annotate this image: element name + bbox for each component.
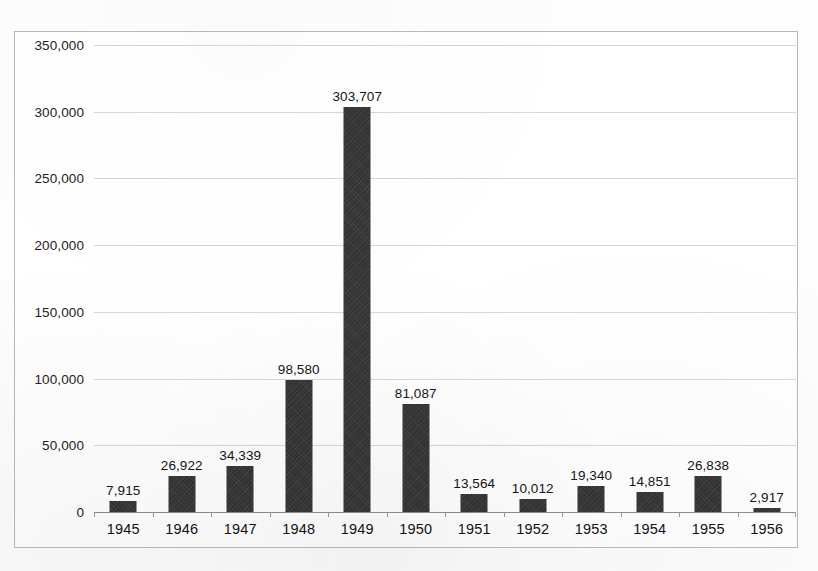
- bar-value-label: 13,564: [453, 476, 495, 491]
- x-axis-category-label: 1952: [516, 521, 549, 537]
- x-axis-category-label: 1948: [282, 521, 315, 537]
- bar[interactable]: [285, 380, 312, 512]
- bar[interactable]: [695, 476, 722, 512]
- bar-value-label: 26,922: [161, 458, 203, 473]
- x-axis-tick-mark: [562, 512, 563, 517]
- bar[interactable]: [168, 476, 195, 512]
- bar-slot: 26,8381955: [679, 45, 738, 512]
- bar[interactable]: [578, 486, 605, 512]
- x-axis-category-label: 1946: [165, 521, 198, 537]
- bar-value-label: 34,339: [219, 448, 261, 463]
- y-axis-tick-label: 250,000: [35, 171, 85, 186]
- x-axis-tick-mark: [679, 512, 680, 517]
- bar[interactable]: [402, 404, 429, 512]
- y-axis-tick-label: 0: [76, 505, 84, 520]
- x-axis-tick-mark: [328, 512, 329, 517]
- y-axis-tick-label: 300,000: [35, 104, 85, 119]
- bar-value-label: 14,851: [629, 474, 671, 489]
- y-axis-tick-label: 200,000: [35, 238, 85, 253]
- bar-value-label: 98,580: [278, 362, 320, 377]
- bar-slot: 14,8511954: [621, 45, 680, 512]
- bar-slot: 2,9171956: [738, 45, 797, 512]
- bar-value-label: 10,012: [512, 481, 554, 496]
- y-axis-tick-label: 100,000: [35, 371, 85, 386]
- x-axis-category-label: 1955: [692, 521, 725, 537]
- chart-frame: 050,000100,000150,000200,000250,000300,0…: [14, 31, 798, 548]
- bar[interactable]: [636, 492, 663, 512]
- x-axis-category-label: 1956: [750, 521, 783, 537]
- bar-series: 7,915194526,922194634,339194798,58019483…: [94, 45, 796, 512]
- x-axis-tick-mark: [270, 512, 271, 517]
- bar-slot: 13,5641951: [445, 45, 504, 512]
- bar-value-label: 2,917: [750, 490, 784, 505]
- x-axis-tick-mark: [795, 512, 796, 517]
- bar[interactable]: [519, 499, 546, 512]
- bar-slot: 10,0121952: [504, 45, 563, 512]
- bar[interactable]: [227, 466, 254, 512]
- bar[interactable]: [753, 508, 780, 512]
- bar[interactable]: [110, 501, 137, 512]
- y-axis-tick-label: 350,000: [35, 38, 85, 53]
- x-axis-tick-mark: [504, 512, 505, 517]
- x-axis-category-label: 1954: [633, 521, 666, 537]
- x-axis-tick-mark: [621, 512, 622, 517]
- bar[interactable]: [344, 107, 371, 512]
- y-axis-tick-label: 50,000: [42, 438, 84, 453]
- bar-value-label: 26,838: [687, 458, 729, 473]
- bar-slot: 303,7071949: [328, 45, 387, 512]
- bar-value-label: 19,340: [570, 468, 612, 483]
- bar-value-label: 303,707: [333, 89, 383, 104]
- bar[interactable]: [461, 494, 488, 512]
- bar-slot: 34,3391947: [211, 45, 270, 512]
- scanned-page: 050,000100,000150,000200,000250,000300,0…: [0, 0, 818, 571]
- x-axis-tick-mark: [387, 512, 388, 517]
- x-axis-category-label: 1949: [341, 521, 374, 537]
- x-axis-tick-mark: [94, 512, 95, 517]
- bar-slot: 98,5801948: [270, 45, 329, 512]
- x-axis-category-label: 1947: [224, 521, 257, 537]
- bar-value-label: 7,915: [106, 483, 140, 498]
- bar-value-label: 81,087: [395, 386, 437, 401]
- x-axis-category-label: 1950: [399, 521, 432, 537]
- x-axis-tick-mark: [445, 512, 446, 517]
- y-axis-tick-label: 150,000: [35, 304, 85, 319]
- bar-slot: 7,9151945: [94, 45, 153, 512]
- bar-slot: 26,9221946: [153, 45, 212, 512]
- x-axis-category-label: 1953: [575, 521, 608, 537]
- x-axis-category-label: 1945: [107, 521, 140, 537]
- x-axis-tick-mark: [738, 512, 739, 517]
- x-axis-tick-mark: [153, 512, 154, 517]
- plot-area: 050,000100,000150,000200,000250,000300,0…: [94, 45, 796, 512]
- bar-slot: 81,0871950: [387, 45, 446, 512]
- x-axis-category-label: 1951: [458, 521, 491, 537]
- x-axis-tick-mark: [211, 512, 212, 517]
- bar-slot: 19,3401953: [562, 45, 621, 512]
